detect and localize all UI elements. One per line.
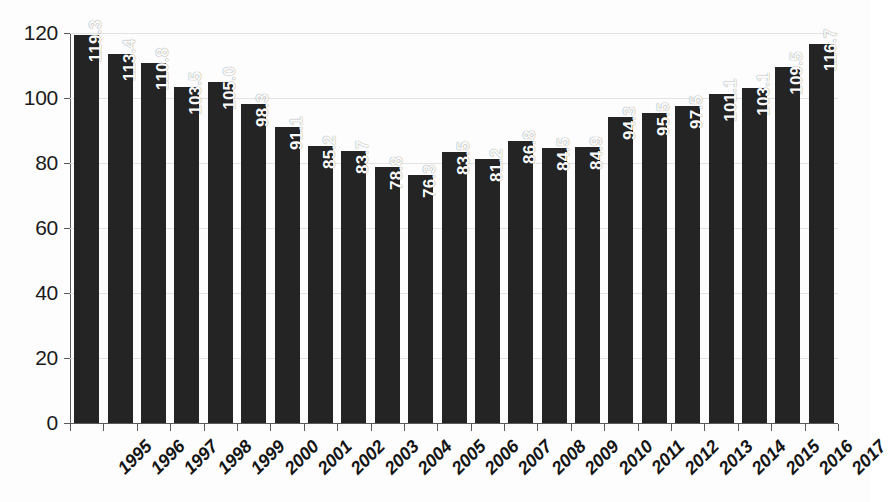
bar[interactable]: 84.9: [575, 147, 600, 423]
y-tick-label: 20: [10, 347, 58, 368]
bar-value-label: 116.7: [822, 28, 839, 71]
x-tick-mark: [604, 424, 605, 431]
x-tick-mark: [805, 424, 806, 431]
x-tick-mark: [504, 424, 505, 431]
bar-value-label: 113.4: [121, 39, 138, 82]
bar-value-label: 78.8: [388, 156, 405, 190]
bar[interactable]: 110.8: [141, 63, 166, 423]
bar-value-label: 84.5: [555, 137, 572, 171]
x-tick-label: 1999: [248, 437, 288, 477]
x-tick-mark: [170, 424, 171, 431]
bar[interactable]: 103.5: [174, 87, 199, 423]
bar[interactable]: 101.1: [709, 94, 734, 423]
bar-value-label: 86.8: [521, 130, 538, 164]
x-tick-label: 2012: [682, 437, 722, 477]
x-tick-mark: [304, 424, 305, 431]
bar-value-label: 105.0: [221, 66, 238, 110]
bar[interactable]: 95.5: [642, 113, 667, 423]
x-tick-mark: [638, 424, 639, 431]
gridline: [70, 33, 838, 34]
x-tick-label: 2014: [749, 437, 789, 477]
bar[interactable]: 86.8: [508, 141, 533, 423]
x-tick-mark: [738, 424, 739, 431]
x-tick-mark: [371, 424, 372, 431]
x-tick-label: 2013: [715, 437, 755, 477]
x-tick-label: 1996: [148, 437, 188, 477]
x-tick-label: 2010: [615, 437, 655, 477]
x-tick-mark: [204, 424, 205, 431]
y-tick-label: 120: [10, 22, 58, 43]
x-tick-mark: [771, 424, 772, 431]
bar[interactable]: 119.3: [74, 35, 99, 423]
plot-area: 119.3113.4110.8103.5105.098.391.185.283.…: [70, 33, 838, 423]
x-tick-label: 2003: [381, 437, 421, 477]
y-tick-label: 60: [10, 217, 58, 238]
x-tick-label: 2002: [348, 437, 388, 477]
bar[interactable]: 116.7: [809, 44, 834, 423]
bar[interactable]: 84.5: [542, 148, 567, 423]
x-tick-label: 2009: [582, 437, 622, 477]
bar-value-label: 95.5: [655, 102, 672, 136]
bar-value-label: 91.1: [288, 116, 305, 150]
bar[interactable]: 103.1: [742, 88, 767, 423]
bar-value-label: 103.5: [187, 71, 204, 115]
x-tick-label: 2015: [782, 437, 822, 477]
x-tick-mark: [571, 424, 572, 431]
x-tick-mark: [70, 424, 71, 431]
bar[interactable]: 98.3: [241, 104, 266, 423]
bar-value-label: 101.1: [722, 79, 739, 123]
x-tick-label: 1997: [181, 437, 221, 477]
bar-value-label: 85.2: [321, 135, 338, 169]
bar-value-label: 97.5: [688, 95, 705, 129]
bar[interactable]: 78.8: [375, 167, 400, 423]
bar[interactable]: 91.1: [275, 127, 300, 423]
x-tick-label: 2017: [849, 437, 888, 477]
bar-value-label: 81.2: [488, 148, 505, 182]
x-tick-label: 2001: [315, 437, 355, 477]
x-tick-mark: [237, 424, 238, 431]
x-tick-mark: [270, 424, 271, 431]
y-tick-label: 100: [10, 87, 58, 108]
y-tick-label: 0: [10, 412, 58, 433]
x-tick-label: 2006: [481, 437, 521, 477]
bar-value-label: 83.5: [455, 141, 472, 175]
bar[interactable]: 81.2: [475, 159, 500, 423]
bar[interactable]: 83.5: [442, 152, 467, 423]
bar[interactable]: 85.2: [308, 146, 333, 423]
x-tick-label: 2005: [448, 437, 488, 477]
bar-value-label: 103.1: [755, 72, 772, 116]
x-tick-label: 2007: [515, 437, 555, 477]
x-tick-label: 2016: [815, 437, 855, 477]
bar-value-label: 110.8: [154, 48, 171, 91]
bar-value-label: 119.3: [87, 20, 104, 63]
x-tick-mark: [337, 424, 338, 431]
bar-value-label: 94.3: [621, 106, 638, 140]
x-tick-label: 1995: [114, 437, 154, 477]
bar-value-label: 84.9: [588, 136, 605, 170]
x-tick-label: 2011: [648, 437, 688, 477]
bar[interactable]: 105.0: [208, 82, 233, 423]
bar-value-label: 98.3: [254, 93, 271, 127]
x-tick-mark: [471, 424, 472, 431]
bar-value-label: 83.7: [354, 140, 371, 174]
y-tick-label: 80: [10, 152, 58, 173]
x-tick-mark: [537, 424, 538, 431]
x-tick-mark: [404, 424, 405, 431]
bar[interactable]: 94.3: [608, 117, 633, 423]
x-tick-mark: [838, 424, 839, 431]
bar-value-label: 109.5: [788, 51, 805, 95]
x-tick-label: 2000: [281, 437, 321, 477]
bar[interactable]: 83.7: [341, 151, 366, 423]
x-tick-mark: [103, 424, 104, 431]
bar[interactable]: 97.5: [675, 106, 700, 423]
x-tick-mark: [671, 424, 672, 431]
x-tick-label: 2008: [548, 437, 588, 477]
x-tick-mark: [437, 424, 438, 431]
bar[interactable]: 113.4: [108, 54, 133, 423]
x-tick-mark: [704, 424, 705, 431]
x-tick-label: 1998: [214, 437, 254, 477]
bar[interactable]: 109.5: [775, 67, 800, 423]
y-tick-label: 40: [10, 282, 58, 303]
bar[interactable]: 76.3: [408, 175, 433, 423]
